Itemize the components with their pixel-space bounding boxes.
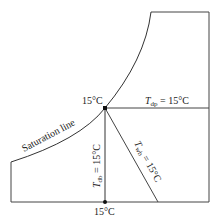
state-point-label: 15°C: [82, 95, 103, 106]
state-point: [103, 106, 107, 110]
bottom-point-label: 15°C: [94, 206, 115, 217]
dew-point-label: Tdp = 15°C: [145, 95, 189, 108]
dry-bulb-label: Tdb = 15°C: [91, 144, 104, 188]
psychrometric-diagram: 15°C 15°C Tdp = 15°C Saturation line Tdb…: [0, 0, 216, 219]
chart-boundary: [11, 12, 209, 202]
bottom-point: [103, 200, 107, 204]
